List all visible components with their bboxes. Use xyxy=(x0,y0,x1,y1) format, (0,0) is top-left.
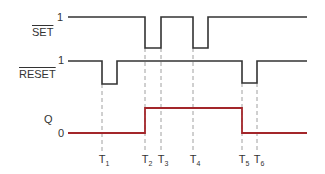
marker-t5: T5 xyxy=(239,154,250,167)
marker-t4: T4 xyxy=(190,154,201,167)
marker-t2-sub: 2 xyxy=(148,160,152,167)
time-marker-lines xyxy=(102,48,257,153)
marker-t5-label: T xyxy=(239,153,246,165)
set-high-label: 1 xyxy=(57,12,63,23)
marker-t2: T2 xyxy=(142,154,153,167)
reset-waveform xyxy=(68,61,307,84)
marker-t3-sub: 3 xyxy=(164,160,168,167)
q-label: Q xyxy=(44,114,53,125)
marker-t4-label: T xyxy=(190,153,197,165)
marker-t6-sub: 6 xyxy=(260,160,264,167)
marker-t4-sub: 4 xyxy=(196,160,200,167)
reset-label: RESET xyxy=(19,69,56,80)
set-label: SET xyxy=(32,27,53,38)
marker-t2-label: T xyxy=(142,153,149,165)
reset-high-label: 1 xyxy=(58,55,64,66)
marker-t1: T1 xyxy=(99,154,110,167)
q-low-label: 0 xyxy=(58,128,64,139)
marker-t6: T6 xyxy=(254,154,265,167)
set-waveform xyxy=(68,17,307,48)
marker-t5-sub: 5 xyxy=(245,160,249,167)
marker-t3: T3 xyxy=(158,154,169,167)
marker-t6-label: T xyxy=(254,153,261,165)
marker-t1-sub: 1 xyxy=(105,160,109,167)
marker-t3-label: T xyxy=(158,153,165,165)
marker-t1-label: T xyxy=(99,153,106,165)
q-waveform xyxy=(68,108,307,133)
